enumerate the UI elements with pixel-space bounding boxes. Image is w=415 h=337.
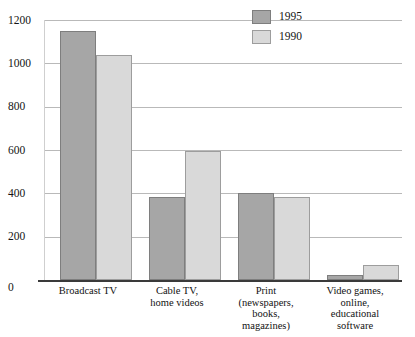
- bar-cable-tv-1995[interactable]: [149, 197, 185, 280]
- legend: 1995 1990: [252, 8, 352, 48]
- x-axis-line: [38, 280, 402, 282]
- bar-broadcast-tv-1990[interactable]: [96, 55, 132, 280]
- y-tick-800: 800: [8, 101, 25, 113]
- y-tick-1200: 1200: [8, 15, 31, 27]
- bar-group-print: [238, 20, 310, 280]
- legend-item-1990[interactable]: 1990: [252, 28, 352, 45]
- bar-print-1990[interactable]: [274, 197, 310, 280]
- y-tick-600: 600: [8, 145, 25, 157]
- y-tick-1000: 1000: [8, 58, 31, 70]
- legend-label-1995: 1995: [279, 11, 302, 23]
- bar-print-1995[interactable]: [238, 193, 274, 280]
- legend-swatch-1990-icon: [252, 30, 271, 44]
- y-axis-line: [44, 20, 45, 280]
- legend-item-1995[interactable]: 1995: [252, 8, 352, 25]
- plot-area: [44, 20, 402, 280]
- bar-video-games-1990[interactable]: [363, 265, 399, 280]
- legend-label-1990: 1990: [279, 31, 302, 43]
- y-tick-200: 200: [8, 231, 25, 243]
- y-tick-400: 400: [8, 188, 25, 200]
- y-tick-0: 0: [8, 282, 14, 294]
- bar-group-cable-tv: [149, 20, 221, 280]
- bar-video-games-1995[interactable]: [327, 275, 363, 280]
- bar-cable-tv-1990[interactable]: [185, 151, 221, 280]
- legend-swatch-1995-icon: [252, 10, 271, 24]
- bar-group-broadcast-tv: [60, 20, 132, 280]
- x-label-video-games: Video games, online, educational softwar…: [295, 285, 415, 331]
- bar-group-video-games: [327, 20, 399, 280]
- bar-chart: 1200 1000 800 600 400 200 0: [0, 0, 415, 337]
- bar-broadcast-tv-1995[interactable]: [60, 31, 96, 280]
